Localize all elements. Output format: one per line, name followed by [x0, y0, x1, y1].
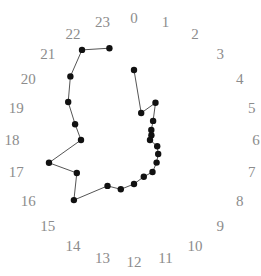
hour-label-1: 1 [162, 14, 170, 30]
radial-hour-chart: 01234567891011121314151617181920212223 [0, 0, 260, 276]
data-point-hour-12 [131, 181, 137, 187]
hour-label-5: 5 [248, 100, 256, 116]
hour-label-13: 13 [95, 250, 110, 266]
data-point-hour-0 [131, 67, 137, 73]
data-point-hour-20 [65, 99, 71, 105]
hour-label-14: 14 [66, 238, 82, 254]
data-point-hour-2 [152, 100, 158, 106]
series-points [46, 45, 162, 203]
hour-label-21: 21 [40, 46, 55, 62]
hour-label-3: 3 [217, 46, 225, 62]
hour-label-4: 4 [236, 71, 244, 87]
hour-label-8: 8 [236, 193, 244, 209]
data-point-hour-6 [147, 137, 153, 143]
hour-label-23: 23 [95, 14, 110, 30]
data-point-hour-17 [46, 160, 52, 166]
data-point-hour-8 [155, 151, 161, 157]
hour-label-22: 22 [66, 26, 81, 42]
hour-label-2: 2 [191, 26, 199, 42]
hour-label-15: 15 [40, 218, 55, 234]
data-point-hour-22 [79, 47, 85, 53]
data-point-hour-3 [150, 118, 156, 124]
data-point-hour-15 [71, 197, 77, 203]
hour-label-20: 20 [21, 71, 36, 87]
data-point-hour-18 [78, 137, 84, 143]
data-point-hour-14 [104, 183, 110, 189]
data-point-hour-11 [141, 174, 147, 180]
data-point-hour-23 [106, 45, 112, 51]
data-point-hour-1 [138, 110, 144, 116]
hour-label-10: 10 [188, 238, 203, 254]
hour-label-17: 17 [9, 164, 25, 180]
data-point-hour-16 [74, 170, 80, 176]
data-point-hour-19 [72, 121, 78, 127]
hour-label-6: 6 [252, 132, 260, 148]
hour-label-0: 0 [130, 10, 138, 26]
hour-label-18: 18 [5, 132, 20, 148]
data-point-hour-21 [67, 73, 73, 79]
hour-label-19: 19 [9, 100, 24, 116]
hour-label-11: 11 [158, 250, 172, 266]
hour-labels: 01234567891011121314151617181920212223 [5, 10, 261, 270]
data-point-hour-7 [154, 143, 160, 149]
data-point-hour-13 [118, 186, 124, 192]
data-point-hour-10 [149, 169, 155, 175]
hour-label-12: 12 [127, 254, 142, 270]
hour-label-16: 16 [21, 193, 37, 209]
hour-label-9: 9 [217, 218, 225, 234]
data-point-hour-9 [153, 159, 159, 165]
hour-label-7: 7 [248, 164, 256, 180]
